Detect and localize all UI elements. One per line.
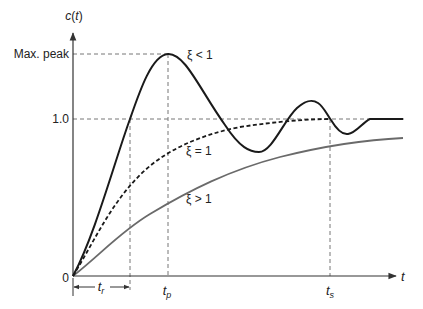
origin-label: 0 — [62, 271, 69, 285]
label-overdamped: ξ > 1 — [186, 192, 212, 206]
label-underdamped: ξ < 1 — [187, 48, 213, 62]
curve-overdamped — [73, 138, 403, 276]
marker-peak-time-label: tp — [163, 283, 172, 300]
reference-lines — [73, 54, 404, 290]
tick-one-label: 1.0 — [52, 112, 69, 126]
label-critically-damped: ξ = 1 — [186, 144, 212, 158]
tick-max-peak-label: Max. peak — [14, 47, 70, 61]
curve-underdamped — [73, 54, 403, 276]
axes — [73, 33, 396, 276]
y-axis-label: c(t) — [65, 9, 82, 23]
curves — [73, 54, 403, 276]
marker-rise-time-label: tr — [98, 279, 106, 296]
x-axis-label: t — [401, 269, 406, 284]
marker-settling-time-label: ts — [326, 283, 335, 300]
step-response-chart: c(t) Max. peak 1.0 0 t tr tp ts ξ < 1 ξ … — [0, 0, 423, 309]
